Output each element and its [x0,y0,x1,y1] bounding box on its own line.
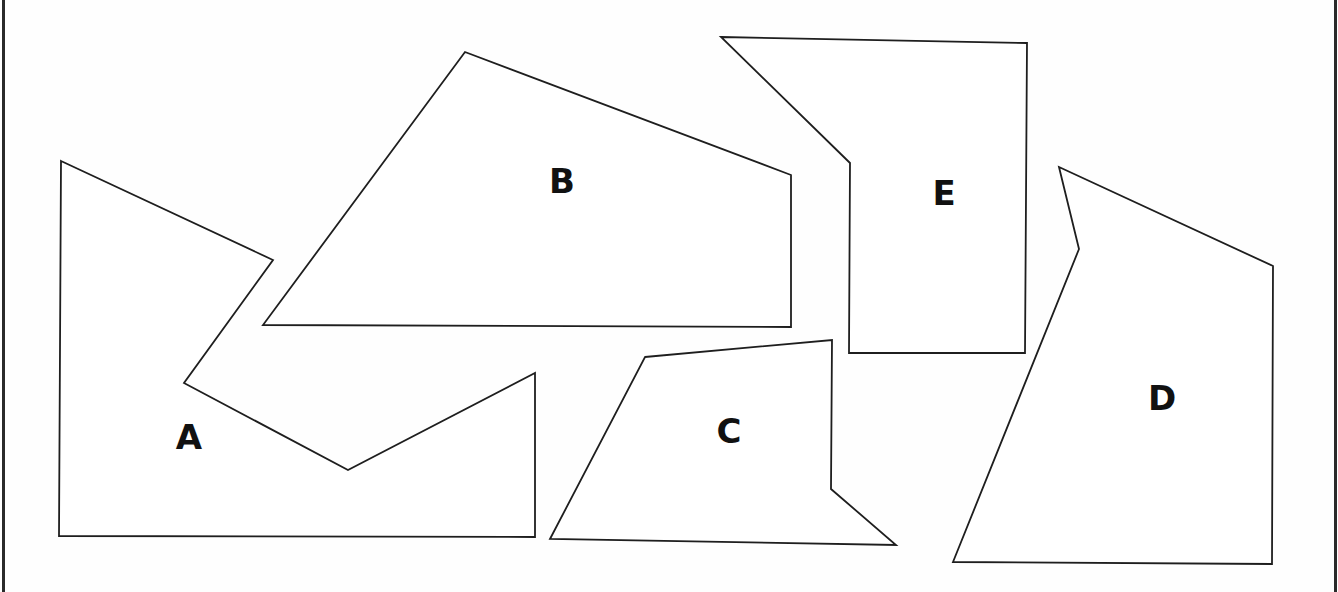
shape-label-a: A [176,420,202,454]
shapes-layer [0,0,1338,592]
shape-label-c: C [717,414,742,448]
shape-label-d: D [1148,381,1176,415]
shape-label-e: E [932,176,955,210]
shape-label-b: B [549,164,575,198]
polygon-b [263,52,791,327]
diagram-canvas: A B C D E [0,0,1338,592]
